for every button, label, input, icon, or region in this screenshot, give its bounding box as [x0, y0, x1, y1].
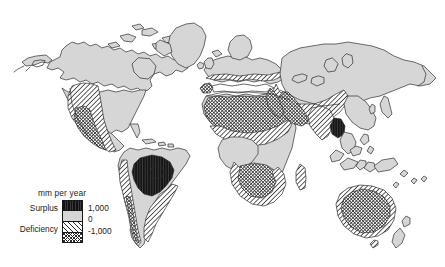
legend-band-deficiency-high — [63, 233, 82, 243]
legend-band-surplus-low — [63, 211, 82, 222]
legend-swatch — [62, 200, 83, 243]
legend-label-deficiency: Deficiency — [0, 224, 58, 234]
legend-title: mm per year — [38, 188, 86, 198]
legend-band-surplus-high — [63, 201, 82, 211]
legend-value-upper: 1,000 — [88, 203, 109, 213]
legend-value-lower: -1,000 — [88, 226, 112, 236]
world-water-budget-figure: mm per year Surplus Deficiency 1,000 0 -… — [0, 0, 445, 267]
legend-value-middle: 0 — [88, 214, 93, 224]
legend-band-deficiency-low — [63, 222, 82, 233]
legend-label-surplus: Surplus — [6, 203, 58, 213]
